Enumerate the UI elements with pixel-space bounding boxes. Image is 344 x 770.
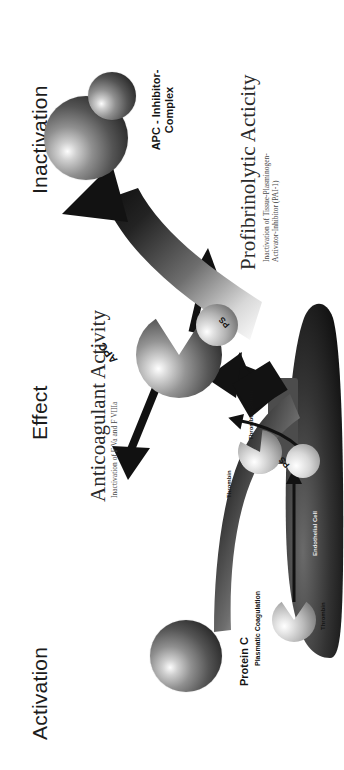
ps-free-sphere xyxy=(286,444,320,478)
label-apc-inhibitor-line2: Complex xyxy=(163,87,175,133)
effect-profibrinolytic-subtitle-line1: Inactivation of Tissue-Plasminogen- xyxy=(262,153,271,262)
ps-bound-sphere xyxy=(196,304,238,346)
label-thrombin-bound: Thrombin xyxy=(226,470,232,498)
effect-anticoagulant-title: Anticoagulant Activity xyxy=(86,310,111,502)
apc-inhibitor-small-sphere xyxy=(88,72,136,120)
label-thrombin-free: Thrombin xyxy=(320,602,326,630)
effect-anticoagulant-subtitle: Inactivation of F Va and F VIIIa xyxy=(110,308,119,498)
figure-canvas: Activation Effect Inactivation xyxy=(0,0,344,770)
effect-profibrinolytic-title: Profibrinolytic Acticity xyxy=(236,75,261,270)
label-apc-inhibitor-line1: APC - Inhibitor- xyxy=(150,70,162,151)
label-plasmatic-coagulation: Plasmatic Coagulation xyxy=(254,591,261,666)
label-endothelial-cell: Endothelial Cell xyxy=(312,511,318,556)
label-thrombomodulin: Thrombomodulin xyxy=(248,391,254,440)
protein-c-sphere xyxy=(150,620,222,692)
label-protein-c: Protein C xyxy=(238,637,250,686)
effect-profibrinolytic-subtitle-line2: Activator-Inhibitor (PAI-1) xyxy=(271,181,280,262)
